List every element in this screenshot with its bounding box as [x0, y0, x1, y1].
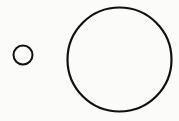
- diagram-canvas: [0, 0, 179, 121]
- small-circle: [14, 46, 33, 65]
- large-circle: [68, 8, 172, 112]
